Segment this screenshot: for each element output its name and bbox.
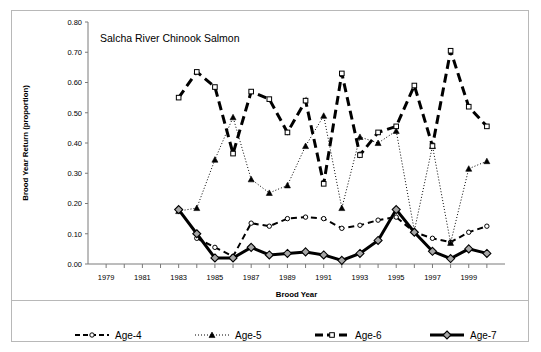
marker-diamond [283,249,291,257]
x-axis-tick-label: 1995 [388,273,405,282]
line-chart: 0.000.100.200.300.400.500.600.700.80Broo… [0,0,541,352]
series-age-5 [176,113,490,246]
marker-square [213,85,218,90]
y-axis-tick-label: 0.30 [67,169,82,178]
marker-triangle [357,134,363,140]
marker-square [176,95,181,100]
marker-diamond [320,251,328,259]
marker-square [485,124,490,129]
x-axis-tick-label: 1999 [460,273,477,282]
marker-circle [249,221,253,225]
marker-square [249,89,254,94]
x-axis-tick-label: 1981 [134,273,151,282]
marker-triangle [248,176,254,182]
marker-square [267,97,272,102]
series-line [197,217,487,256]
x-axis-tick-label: 1987 [243,273,260,282]
marker-triangle [230,114,236,120]
marker-circle [90,333,94,337]
marker-circle [467,230,471,234]
marker-circle [285,216,289,220]
marker-diamond [338,256,346,264]
marker-triangle [321,113,327,119]
x-axis-tick-label: 1997 [424,273,441,282]
marker-diamond [443,331,451,339]
marker-square [394,124,399,129]
legend-item-age-7[interactable]: Age-7 [430,330,497,341]
marker-circle [321,216,325,220]
legend-label: Age-5 [235,330,262,341]
chart-figure: 0.000.100.200.300.400.500.600.700.80Broo… [0,0,541,352]
marker-square [448,48,453,53]
legend-label: Age-4 [115,330,142,341]
marker-square [376,130,381,135]
marker-triangle [209,332,215,338]
legend-label: Age-7 [470,330,497,341]
x-axis-tick-label: 1985 [207,273,224,282]
marker-square [285,130,290,135]
marker-circle [213,245,217,249]
marker-triangle [466,166,472,172]
series-age-6 [176,48,489,186]
y-axis-tick-label: 0.10 [67,230,82,239]
marker-triangle [284,182,290,188]
series-age-7 [175,206,491,265]
marker-triangle [484,158,490,164]
marker-circle [340,226,344,230]
y-axis-tick-label: 0.70 [67,48,82,57]
marker-square [466,104,471,109]
x-axis-tick-label: 1979 [98,273,115,282]
marker-square [231,151,236,156]
marker-square [321,182,326,187]
y-axis-title: Brood Year Return (proportion) [21,85,30,201]
marker-diamond [483,249,491,257]
chart-title: Salcha River Chinook Salmon [100,32,240,44]
marker-square [430,144,435,149]
marker-circle [430,236,434,240]
series-age-4 [195,215,489,259]
x-axis-tick-label: 1993 [352,273,369,282]
legend-item-age-4[interactable]: Age-4 [75,330,142,341]
x-axis-title: Brood Year [276,290,317,299]
y-axis-tick-label: 0.40 [67,139,82,148]
y-axis-tick-label: 0.60 [67,78,82,87]
marker-triangle [339,205,345,211]
legend-label: Age-6 [355,330,382,341]
y-axis-tick-label: 0.20 [67,199,82,208]
marker-square [330,333,335,338]
y-axis-tick-label: 0.50 [67,109,82,118]
marker-circle [303,215,307,219]
marker-triangle [194,205,200,211]
marker-square [340,71,345,76]
marker-square [412,83,417,88]
marker-triangle [266,190,272,196]
y-axis-tick-label: 0.80 [67,18,82,27]
y-axis-tick-label: 0.00 [67,260,82,269]
marker-circle [358,223,362,227]
x-axis-tick-label: 1991 [315,273,332,282]
marker-circle [485,224,489,228]
series-line [179,51,487,184]
marker-square [194,70,199,75]
marker-triangle [303,143,309,149]
marker-diamond [265,251,273,259]
legend-item-age-5[interactable]: Age-5 [195,330,262,341]
marker-circle [376,218,380,222]
marker-circle [394,215,398,219]
marker-square [303,98,308,103]
x-axis-tick-label: 1983 [170,273,187,282]
marker-circle [267,224,271,228]
x-axis-tick-label: 1989 [279,273,296,282]
marker-diamond [302,248,310,256]
marker-triangle [212,157,218,163]
legend-item-age-6[interactable]: Age-6 [315,330,382,341]
marker-square [358,153,363,158]
